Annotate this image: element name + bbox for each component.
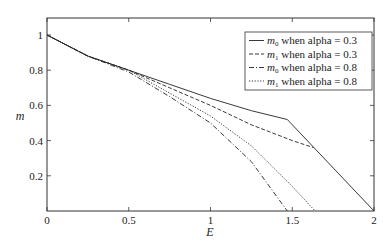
x-tick-label: 2 xyxy=(371,214,377,226)
y-tick-label: 0.6 xyxy=(29,99,43,111)
x-tick-label: 0 xyxy=(44,214,50,226)
x-axis-label: E xyxy=(205,225,214,239)
y-tick-label: 0.8 xyxy=(29,64,43,76)
x-tick-label: 0.5 xyxy=(122,214,136,226)
y-axis-label: m xyxy=(16,109,25,123)
chart: 00.511.520.20.40.60.81 E m m0 when alpha… xyxy=(0,0,392,248)
legend-entry: m1 when alpha = 0.8 xyxy=(267,75,358,89)
y-tick-label: 1 xyxy=(38,29,44,41)
legend: m0 when alpha = 0.3m1 when alpha = 0.3m0… xyxy=(245,32,372,90)
y-tick-label: 0.2 xyxy=(29,170,43,182)
x-tick-label: 1.5 xyxy=(285,214,299,226)
legend-entry: m0 when alpha = 0.3 xyxy=(267,34,358,48)
legend-entry: m0 when alpha = 0.8 xyxy=(267,61,358,75)
y-tick-label: 0.4 xyxy=(29,135,43,147)
legend-entry: m1 when alpha = 0.3 xyxy=(267,48,358,62)
